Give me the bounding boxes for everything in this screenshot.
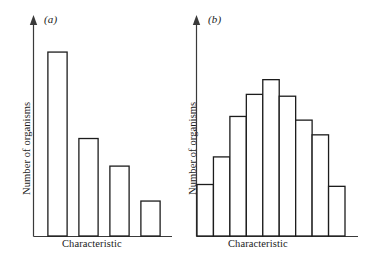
panel-a-y-axis-arrowhead bbox=[30, 15, 37, 25]
panel-b-plot bbox=[186, 0, 373, 256]
histogram-bar bbox=[141, 201, 160, 236]
histogram-bar bbox=[230, 116, 246, 236]
panel-a: (a) Number of organisms Characteristic bbox=[0, 0, 186, 256]
histogram-bar bbox=[213, 157, 229, 236]
histogram-bar bbox=[48, 52, 67, 236]
panel-b-y-axis-arrowhead bbox=[193, 15, 200, 25]
panel-a-plot bbox=[0, 0, 186, 256]
panel-a-bar-group bbox=[48, 52, 160, 236]
histogram-bar bbox=[79, 139, 98, 236]
histogram-bar bbox=[312, 135, 328, 236]
histogram-bar bbox=[263, 80, 279, 236]
figure-variation-histograms: (a) Number of organisms Characteristic (… bbox=[0, 0, 373, 256]
histogram-bar bbox=[329, 186, 345, 236]
histogram-bar bbox=[110, 166, 129, 236]
histogram-bar bbox=[197, 185, 213, 237]
histogram-bar bbox=[279, 96, 295, 236]
histogram-bar bbox=[296, 120, 312, 236]
histogram-bar bbox=[246, 94, 262, 236]
panel-b: (b) Number of organisms Characteristic bbox=[186, 0, 373, 256]
panel-b-bar-group bbox=[197, 80, 345, 236]
